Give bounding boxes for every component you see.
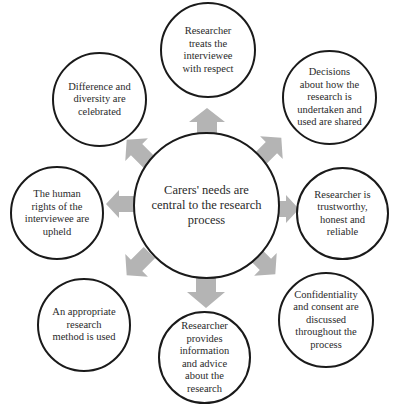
node-right: Researcher is trustworthy, honest and re… (296, 167, 389, 260)
node-bottom-label: Researcher provides information and advi… (172, 320, 238, 395)
arrow-left-icon (106, 188, 134, 220)
node-upper-left: Difference and diversity are celebrated (52, 52, 147, 147)
node-lower-left-label: An appropriate research method is used (44, 306, 123, 344)
center-node-label: Carers' needs are central to the researc… (143, 183, 269, 228)
node-lower-left: An appropriate research method is used (37, 278, 131, 372)
node-right-label: Researcher is trustworthy, honest and re… (306, 189, 378, 239)
node-left-label: The human rights of the interviewee are … (17, 188, 97, 238)
node-top: Researcher treats the interviewee with r… (160, 2, 256, 98)
arrow-down-icon (186, 276, 226, 308)
node-left: The human rights of the interviewee are … (10, 166, 104, 260)
node-bottom: Researcher provides information and advi… (158, 311, 251, 404)
node-top-label: Researcher treats the interviewee with r… (174, 25, 241, 75)
node-upper-right: Decisions about how the research is unde… (282, 50, 377, 145)
center-node: Carers' needs are central to the researc… (133, 132, 280, 279)
node-lower-right-label: Confidentiality and consent are discusse… (285, 289, 366, 352)
carers-research-diagram: Carers' needs are central to the researc… (0, 0, 399, 409)
node-upper-right-label: Decisions about how the research is unde… (289, 66, 370, 129)
node-upper-left-label: Difference and diversity are celebrated (60, 81, 138, 119)
node-lower-right: Confidentiality and consent are discusse… (278, 272, 374, 368)
